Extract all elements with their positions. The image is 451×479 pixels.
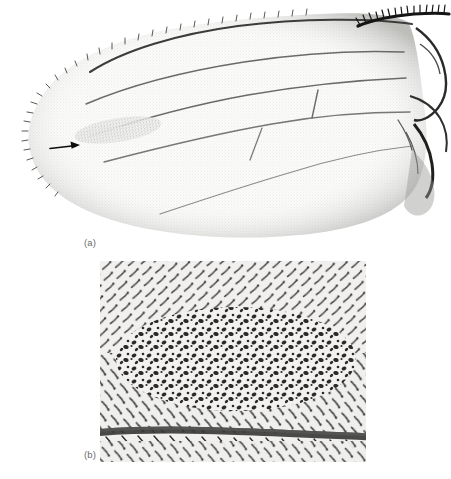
panel-a-wing-micrograph bbox=[0, 0, 451, 245]
figure-root: (a) bbox=[0, 0, 451, 479]
panel-b-svg bbox=[100, 261, 366, 462]
panel-b-label: (b) bbox=[84, 449, 96, 460]
panel-a-svg bbox=[0, 0, 451, 245]
panel-a-label: (a) bbox=[84, 237, 96, 248]
panel-b-trichome-micrograph bbox=[100, 261, 366, 462]
page-bleed-text bbox=[8, 470, 443, 477]
